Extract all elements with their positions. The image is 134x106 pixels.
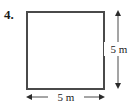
item-number: 4. — [4, 8, 14, 22]
geometry-figure-square: 4. 5 m 5 m — [0, 0, 134, 106]
square-shape — [26, 11, 105, 90]
vertical-dimension-label: 5 m — [104, 42, 134, 56]
horizontal-dimension-label: 5 m — [48, 90, 84, 104]
